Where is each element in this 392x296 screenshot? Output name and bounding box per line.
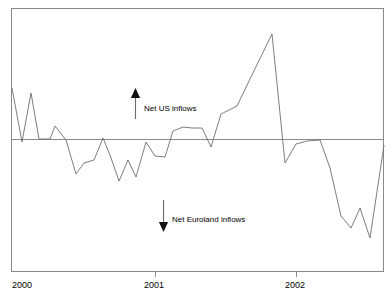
annotation-labels: Net US inflowsNet Euroland inflows [0, 0, 392, 296]
net-euroland-inflows-label: Net Euroland inflows [172, 215, 245, 224]
net-us-inflows-label: Net US inflows [144, 104, 196, 113]
chart-figure: 200020012002 Net US inflowsNet Euroland … [0, 0, 392, 296]
